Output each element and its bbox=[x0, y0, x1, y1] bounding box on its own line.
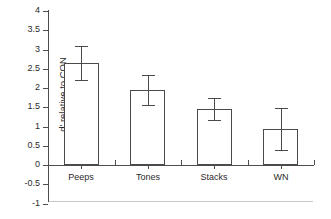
y-tick-label: 2 bbox=[8, 83, 40, 92]
y-tick bbox=[43, 165, 48, 166]
error-bar-line bbox=[81, 46, 82, 81]
plot-bottom-rule bbox=[49, 201, 313, 202]
y-tick bbox=[43, 30, 48, 31]
y-tick bbox=[43, 127, 48, 128]
y-tick bbox=[43, 11, 48, 12]
error-bar-cap-upper bbox=[75, 46, 88, 47]
error-bar-cap-upper bbox=[142, 75, 155, 76]
y-tick-label: 3.5 bbox=[8, 25, 40, 34]
x-category-label: Tones bbox=[115, 172, 181, 182]
y-tick-label: 0.5 bbox=[8, 141, 40, 150]
error-bar-line bbox=[214, 98, 215, 120]
x-category-label: Stacks bbox=[181, 172, 247, 182]
x-category-label: Peeps bbox=[48, 172, 114, 182]
x-tick bbox=[181, 160, 182, 165]
y-tick bbox=[43, 184, 48, 185]
y-tick bbox=[43, 204, 48, 205]
y-tick-label: 1.5 bbox=[8, 102, 40, 111]
x-tick-minor bbox=[281, 165, 282, 169]
x-tick bbox=[48, 160, 49, 165]
y-tick bbox=[43, 50, 48, 51]
error-bar-cap-lower bbox=[75, 80, 88, 81]
x-tick bbox=[248, 160, 249, 165]
error-bar-cap-upper bbox=[275, 108, 288, 109]
error-bar-line bbox=[148, 75, 149, 106]
y-tick-label: 3 bbox=[8, 45, 40, 54]
y-tick bbox=[43, 146, 48, 147]
y-tick bbox=[43, 69, 48, 70]
error-bar-cap-lower bbox=[275, 150, 288, 151]
y-tick-label: -1 bbox=[8, 199, 40, 208]
x-tick-minor bbox=[81, 165, 82, 169]
error-bar-line bbox=[281, 108, 282, 150]
x-tick-minor bbox=[148, 165, 149, 169]
y-tick-label: 0 bbox=[8, 160, 40, 169]
y-tick-label: 1 bbox=[8, 122, 40, 131]
x-tick bbox=[314, 160, 315, 165]
bar-chart: d' relative to CON 43.532.521.510.50-0.5… bbox=[0, 0, 331, 219]
error-bar-cap-lower bbox=[208, 120, 221, 121]
x-category-label: WN bbox=[248, 172, 314, 182]
x-tick bbox=[115, 160, 116, 165]
x-tick-minor bbox=[214, 165, 215, 169]
y-tick-label: 4 bbox=[8, 6, 40, 15]
x-axis-zero-line bbox=[48, 165, 314, 166]
y-tick bbox=[43, 107, 48, 108]
y-tick-label: 2.5 bbox=[8, 64, 40, 73]
y-tick-label: -0.5 bbox=[8, 179, 40, 188]
error-bar-cap-lower bbox=[142, 105, 155, 106]
y-tick bbox=[43, 88, 48, 89]
error-bar-cap-upper bbox=[208, 98, 221, 99]
